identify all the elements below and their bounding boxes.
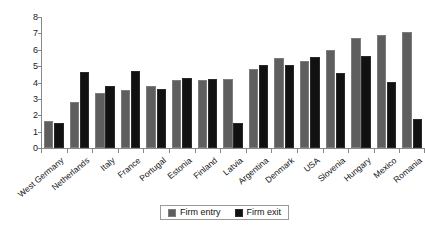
bar-firm-entry bbox=[351, 38, 361, 148]
y-tick-mark bbox=[38, 17, 41, 18]
legend-label-firm-exit: Firm exit bbox=[247, 208, 282, 217]
y-tick-mark bbox=[38, 66, 41, 67]
bar-firm-entry bbox=[223, 79, 233, 148]
bar-firm-entry bbox=[44, 121, 54, 148]
bar-firm-entry bbox=[172, 80, 182, 148]
bar-firm-entry bbox=[198, 80, 208, 148]
y-tick-mark bbox=[38, 50, 41, 51]
bar-firm-exit bbox=[310, 57, 320, 148]
bar-firm-entry bbox=[377, 35, 387, 148]
plot-area: 012345678 bbox=[0, 0, 425, 160]
bar-firm-exit bbox=[182, 78, 192, 148]
legend-item-firm-entry: Firm entry bbox=[168, 208, 221, 217]
bar-firm-exit bbox=[131, 71, 141, 148]
bar-firm-entry bbox=[300, 61, 310, 148]
bar-firm-entry bbox=[95, 93, 105, 148]
x-axis-category-labels: West GermanyNetherlandsItalyFrancePortug… bbox=[0, 152, 425, 204]
bar-firm-entry bbox=[402, 32, 412, 148]
y-tick-mark bbox=[38, 115, 41, 116]
bar-firm-entry bbox=[249, 69, 259, 148]
bar-firm-exit bbox=[413, 119, 423, 148]
bar-firm-exit bbox=[157, 89, 167, 148]
bar-firm-entry bbox=[121, 90, 131, 148]
y-tick-mark bbox=[38, 99, 41, 100]
bar-firm-exit bbox=[80, 72, 90, 148]
legend-swatch-firm-entry-icon bbox=[168, 209, 176, 217]
bar-firm-entry bbox=[70, 102, 80, 148]
bar-firm-entry bbox=[146, 86, 156, 148]
bar-firm-entry bbox=[326, 50, 336, 148]
bar-firm-exit bbox=[336, 73, 346, 148]
legend-label-firm-entry: Firm entry bbox=[180, 208, 221, 217]
y-tick-mark bbox=[38, 33, 41, 34]
y-tick-mark bbox=[38, 132, 41, 133]
bar-firm-entry bbox=[274, 58, 284, 148]
bar-firm-exit bbox=[387, 82, 397, 148]
bar-firm-exit bbox=[208, 79, 218, 148]
bar-firm-exit bbox=[54, 123, 64, 148]
bar-chart: 012345678 West GermanyNetherlandsItalyFr… bbox=[0, 0, 425, 236]
legend-item-firm-exit: Firm exit bbox=[235, 208, 282, 217]
bar-firm-exit bbox=[285, 65, 295, 148]
bar-firm-exit bbox=[233, 123, 243, 148]
bars-layer bbox=[0, 0, 425, 160]
legend-swatch-firm-exit-icon bbox=[235, 209, 243, 217]
chart-legend: Firm entry Firm exit bbox=[160, 205, 289, 220]
bar-firm-exit bbox=[105, 86, 115, 148]
bar-firm-exit bbox=[259, 65, 269, 148]
y-tick-mark bbox=[38, 83, 41, 84]
bar-firm-exit bbox=[361, 56, 371, 148]
